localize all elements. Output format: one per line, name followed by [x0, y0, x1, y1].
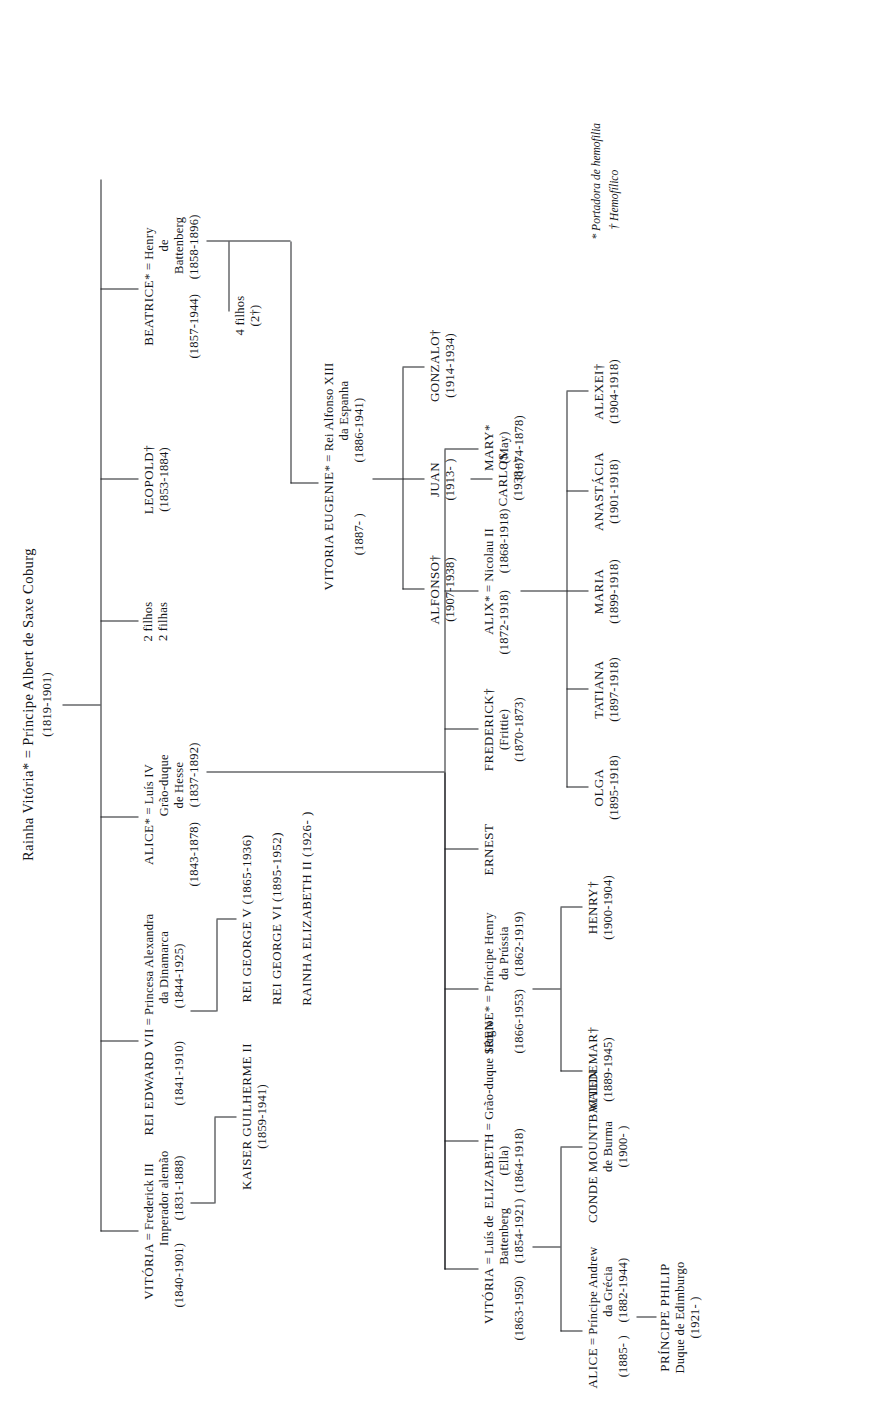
alfonso-xiii-line2: da Espanha	[336, 380, 350, 440]
edward-dates: (1841-1910)	[171, 1040, 185, 1105]
connector-alice-descend	[206, 771, 444, 772]
connector-vitoria-batt-descend	[532, 1246, 560, 1247]
alice-andrew-dates: (1885- )	[615, 1335, 629, 1377]
luis-name: Luís IV	[141, 763, 155, 803]
connector-irene-descend	[532, 988, 560, 989]
kaiser-dates: (1859-1941)	[254, 1001, 269, 1231]
ernest-name: ERNEST	[480, 797, 496, 901]
alexandra-dates: (1844-1925)	[171, 943, 185, 1008]
olga-dates: (1895-1918)	[606, 731, 621, 843]
beatrice-dates: (1857-1944)	[186, 293, 200, 358]
henry-batt-line3: Battenberg	[171, 216, 185, 273]
node-alix-nicolau: ALIX*=Nicolau II (1872-1918) (1868-1918)	[480, 483, 511, 679]
connector-george-v-drop	[216, 918, 236, 919]
node-rei-george-v: REI GEORGE V (1865-1936)	[238, 803, 254, 1033]
mary-nickname: (May)	[496, 391, 511, 503]
connector-maria-drop	[566, 590, 588, 591]
connector-gen1-bus	[100, 179, 101, 1231]
andrew-line2: da Grécia	[600, 1266, 614, 1316]
quatro-filhos-line2: (2†)	[247, 267, 262, 363]
node-henry-jr: HENRY† (1900-1904)	[584, 847, 615, 967]
node-gonzalo: GONZALO† (1914-1934)	[426, 301, 457, 429]
node-rainha-elizabeth-ii: RAINHA ELIZABETH II (1926- )	[298, 783, 314, 1033]
henry-prussia-line2: da Prússia	[496, 926, 510, 980]
connector-child-mary	[444, 448, 478, 449]
node-ernest: ERNEST	[480, 797, 496, 901]
connector-tatiana-drop	[566, 688, 588, 689]
node-olga: OLGA (1895-1918)	[590, 731, 621, 843]
node-edward-alexandra: REI EDWARD VII=Princesa Alexandra REI ED…	[140, 879, 186, 1169]
chart-title-line2: (1819-1901)	[38, 519, 55, 889]
node-kaiser-guilherme-ii: KAISER GUILHERME II (1859-1941)	[238, 1001, 269, 1231]
philip-line1: PRÍNCIPE PHILIP	[656, 1211, 672, 1409]
edward-eq: =	[141, 1014, 155, 1027]
connector-eugenie-drop	[290, 482, 318, 483]
alix-dates: (1872-1918)	[496, 589, 510, 654]
connector-root-vertical	[62, 704, 100, 705]
leopold-dates: (1853-1884)	[156, 427, 171, 531]
connector-irene-children-bus	[560, 907, 561, 1071]
connector-drop-edward	[100, 1040, 138, 1041]
connector-alfonso-jr-drop	[402, 588, 424, 589]
legend: * Portadora de hemofilia † Hemofílico	[586, 122, 623, 239]
node-dois-filhos: 2 filhos 2 filhas	[140, 575, 170, 667]
andrew-name: Príncipe Andrew	[585, 1246, 599, 1334]
gonzalo-name: GONZALO†	[426, 301, 442, 429]
vitoria-frederick-spouse: Frederick III	[141, 1163, 155, 1230]
george-v-label: REI GEORGE V (1865-1936)	[238, 803, 254, 1033]
vitoria-batt-eq: =	[481, 1254, 495, 1267]
node-tatiana: TATIANA (1897-1918)	[590, 633, 621, 745]
family-tree-canvas: Rainha Vitória* = Príncipe Albert de Sax…	[0, 0, 891, 1409]
legend-carrier: * Portadora de hemofilia	[586, 122, 604, 239]
maria-dates: (1899-1918)	[606, 535, 621, 647]
frederick-dates: (1870-1873)	[511, 669, 526, 789]
node-principe-philip: PRÍNCIPE PHILIP Duque de Edimburgo (1921…	[656, 1211, 702, 1409]
kaiser-name: KAISER GUILHERME II	[238, 1001, 254, 1231]
leopold-name: LEOPOLD†	[140, 427, 156, 531]
connector-child-alix	[444, 590, 478, 591]
luis-line3: de Hesse	[171, 761, 185, 808]
alfonso-jr-name: ALFONSO†	[426, 525, 442, 653]
node-alexei: ALEXEI† (1904-1918)	[590, 333, 621, 449]
dois-filhos-line1: 2 filhos	[140, 575, 155, 667]
connector-child-elizabeth	[444, 1140, 478, 1141]
alice-andrew-name: ALICE	[584, 1347, 599, 1388]
henry-prussia-dates: (1862-1919)	[511, 911, 525, 976]
mountbatten-line3: (1900- )	[615, 1041, 630, 1251]
henry-jr-dates: (1900-1904)	[600, 847, 615, 967]
connector-drop-alice	[100, 816, 138, 817]
dois-filhos-line2: 2 filhas	[155, 575, 170, 667]
waldemar-name: WALDEMAR†	[584, 1005, 600, 1133]
connector-child-irene	[444, 988, 478, 989]
alexei-dates: (1904-1918)	[606, 333, 621, 449]
irene-name: IRENE*	[480, 1005, 495, 1052]
edward-name: REI EDWARD VII	[140, 1028, 155, 1135]
frederick-name: FREDERICK†	[480, 669, 496, 789]
connector-drop-beatrice	[100, 288, 138, 289]
connector-beatrice-children-bus	[290, 241, 291, 483]
connector-edward-to-children	[190, 1010, 216, 1011]
tatiana-dates: (1897-1918)	[606, 633, 621, 745]
alix-name: ALIX*	[480, 595, 495, 635]
connector-alice-andrew-drop	[560, 1330, 582, 1331]
vitoria-frederick-eq: =	[141, 1229, 155, 1242]
vitoria-batt-name: VITÓRIA	[480, 1267, 495, 1324]
waldemar-dates: (1889-1945)	[600, 1005, 615, 1133]
elizabeth-ella-eq: =	[481, 1119, 495, 1132]
olga-name: OLGA	[590, 731, 606, 843]
luis-dates: (1837-1892)	[186, 742, 200, 807]
connector-beatrice-descend	[206, 240, 290, 241]
tatiana-name: TATIANA	[590, 633, 606, 745]
node-maria: MARIA (1899-1918)	[590, 535, 621, 647]
maria-name: MARIA	[590, 535, 606, 647]
george-vi-label: REI GEORGE VI (1895-1952)	[268, 803, 284, 1033]
connector-kaiser-drop	[214, 1116, 236, 1117]
vitoria-batt-dates: (1863-1950)	[511, 1275, 525, 1340]
vitoria-frederick-name: VITÓRIA	[140, 1243, 155, 1300]
connector-alexei-drop	[566, 390, 588, 391]
alfonso-xiii-name: Rei Alfonso XIII	[321, 362, 335, 451]
alexandra-name: Princesa Alexandra	[141, 913, 155, 1014]
node-alfonso-jr: ALFONSO† (1907-1938)	[426, 525, 457, 653]
connector-eugenie-children-descend	[372, 478, 402, 479]
alice-dates: (1843-1878)	[186, 821, 200, 886]
